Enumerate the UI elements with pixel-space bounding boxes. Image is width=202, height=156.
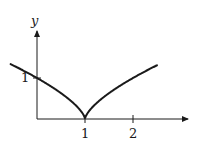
x-tick-label-2: 2	[129, 126, 137, 141]
x-tick-label-1: 1	[81, 126, 89, 141]
y-axis-label: y	[30, 13, 39, 28]
curve-line	[11, 64, 157, 118]
chart: y 1 1 2	[0, 0, 202, 156]
y-tick-label-1: 1	[21, 70, 29, 85]
